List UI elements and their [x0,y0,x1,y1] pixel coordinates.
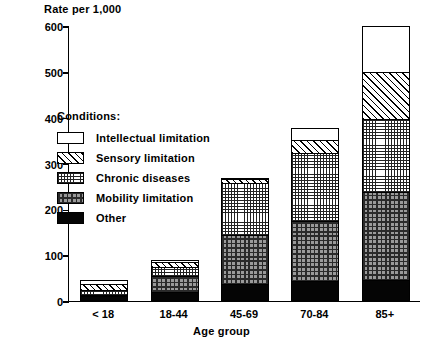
legend-item-label: Other [96,212,126,224]
bar-segment [221,284,269,301]
bar-segment [221,183,269,236]
legend-item: Mobility limitation [57,189,210,207]
legend-item-label: Sensory limitation [96,152,195,164]
bar-segment [151,292,199,301]
bar-70-84 [291,129,339,301]
legend-item: Chronic diseases [57,169,210,187]
y-axis-tick [63,301,69,303]
legend-item-label: Intellectual limitation [96,132,210,144]
bar-segment [151,267,199,277]
x-axis-tick-label: 85+ [337,308,433,320]
bar-segment [291,221,339,282]
bar-segment [291,128,339,140]
x-axis-title: Age group [0,325,443,337]
y-axis-tick-label: 0 [57,296,63,308]
bar-segment [151,260,199,263]
chart-container: Rate per 1,000 0100200300400500600 Age g… [0,0,443,350]
bar-45-69 [221,180,269,301]
chart-legend: Conditions: Intellectual limitationSenso… [57,110,210,229]
bar-segment [291,281,339,301]
bar-segment [362,280,410,301]
legend-item-label: Chronic diseases [96,172,190,184]
legend-swatch [57,172,84,184]
y-axis-title: Rate per 1,000 [44,3,121,15]
y-axis-tick-label: 500 [45,67,63,79]
bar-segment [221,235,269,285]
y-axis-tick-label: 600 [45,21,63,33]
bar-segment [80,284,128,291]
y-axis-tick [63,255,69,257]
bar-segment [362,26,410,73]
legend-title: Conditions: [57,110,210,122]
legend-swatch [57,152,84,164]
bar-segment [291,153,339,222]
legend-swatch [57,212,84,224]
bar-segment [362,192,410,281]
bar-segment [151,276,199,293]
y-axis-tick [63,26,69,28]
bar--18 [80,281,128,301]
legend-swatch [57,132,84,144]
bar-segment [80,280,128,285]
bar-segment [221,178,269,180]
y-axis-tick-label: 100 [45,250,63,262]
bar-segment [291,140,339,155]
legend-item: Sensory limitation [57,149,210,167]
bar-segment [362,72,410,120]
legend-swatch [57,192,84,204]
bar-85+ [362,27,410,301]
legend-item: Intellectual limitation [57,129,210,147]
bar-18-44 [151,261,199,301]
legend-item: Other [57,209,210,227]
legend-item-label: Mobility limitation [96,192,193,204]
bar-segment [362,119,410,193]
y-axis-tick [63,72,69,74]
